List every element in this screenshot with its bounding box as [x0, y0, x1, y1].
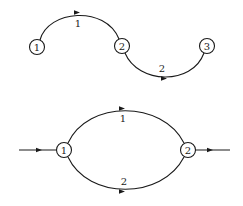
bottom-diagram: 1 2 1 2 [19, 106, 230, 193]
bottom-node-2: 2 [181, 143, 196, 158]
bottom-edge-2-arrow-icon [119, 189, 125, 193]
top-edge-1-arrow-icon [74, 10, 80, 14]
bottom-node-1-label: 1 [61, 145, 67, 156]
bottom-input-arrow-icon [36, 148, 42, 152]
top-node-3-label: 3 [204, 41, 210, 52]
top-edge-1-label: 1 [75, 18, 81, 29]
bottom-node-2-label: 2 [185, 145, 191, 156]
bottom-edge-1-arrow-icon [119, 106, 125, 110]
bottom-output-arrow-icon [207, 148, 213, 152]
top-diagram: 1 2 1 2 3 [30, 10, 215, 80]
bottom-node-1: 1 [57, 143, 72, 158]
top-node-1-label: 1 [34, 42, 40, 53]
top-node-1: 1 [30, 40, 45, 55]
bottom-edge-2-label: 2 [121, 176, 127, 187]
top-node-2-label: 2 [119, 41, 125, 52]
top-node-2: 2 [115, 39, 130, 54]
bottom-edge-1-label: 1 [120, 113, 126, 124]
top-edge-2-label: 2 [159, 63, 165, 74]
top-node-3: 3 [200, 39, 215, 54]
network-diagram: 1 2 1 2 3 1 2 [0, 0, 243, 206]
